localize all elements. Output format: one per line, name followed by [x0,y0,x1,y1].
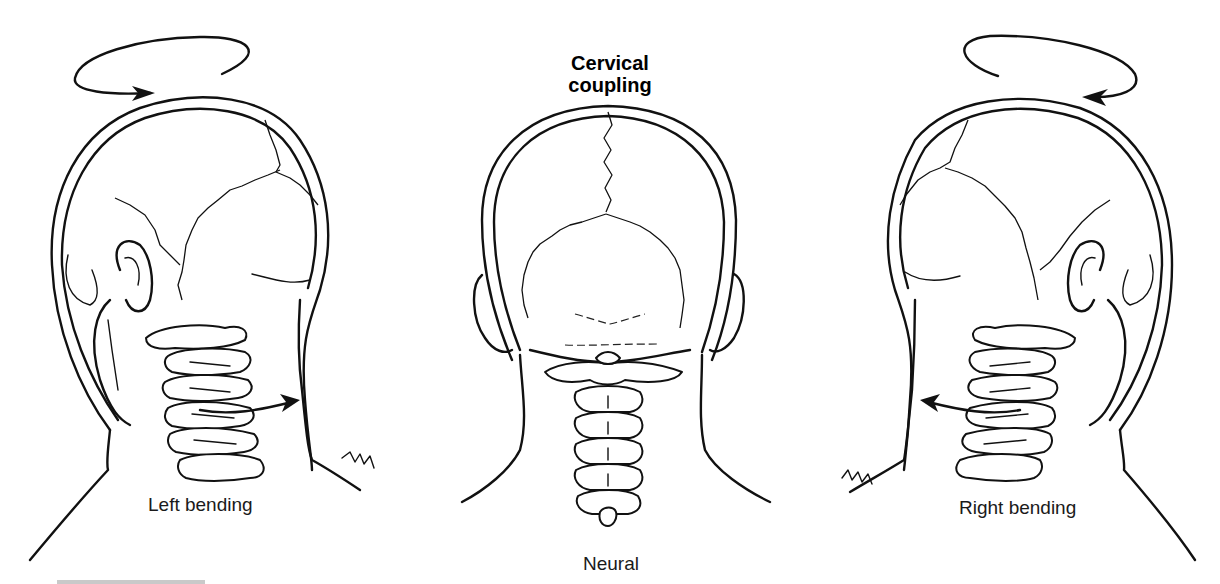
artist-signature [342,452,374,468]
center-head-figure [462,106,770,526]
title-line-2: coupling [548,74,672,96]
title-line-1: Cervical [548,52,672,74]
right-cervical-spine [956,325,1075,481]
figure-title: Cervical coupling [548,52,672,96]
rotation-arrow-icon [964,36,1136,106]
right-head-figure [842,36,1195,560]
left-head-figure [30,37,374,560]
footer-grey-bar [57,580,205,584]
label-left-bending: Left bending [148,494,253,516]
rotation-arrow-icon [75,37,249,101]
label-neural: Neural [583,553,639,575]
left-cervical-spine [146,325,264,481]
center-cervical-spine [575,386,643,526]
label-right-bending: Right bending [959,497,1076,519]
